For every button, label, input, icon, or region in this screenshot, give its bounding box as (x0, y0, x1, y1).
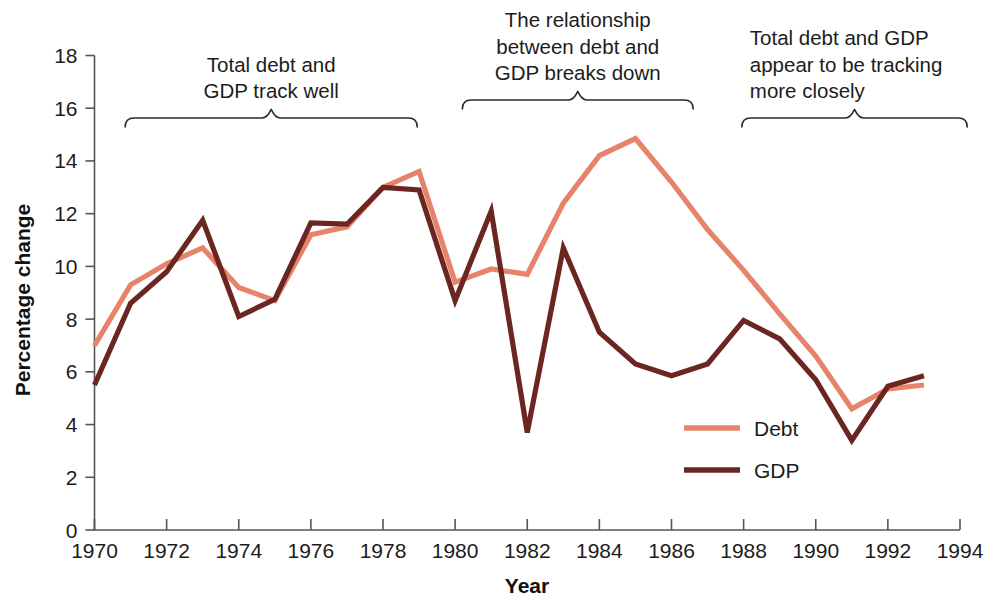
annotation-right-line: appear to be tracking (750, 53, 943, 76)
y-tick-label: 14 (54, 149, 78, 172)
annotation-middle-line: GDP breaks down (495, 61, 661, 84)
x-tick-label: 1988 (720, 539, 767, 562)
annotation-middle-line: The relationship (505, 8, 651, 31)
y-tick-label: 16 (54, 97, 77, 120)
y-tick-label: 6 (66, 360, 78, 383)
y-tick-label: 4 (66, 413, 78, 436)
y-tick-label: 12 (54, 202, 77, 225)
legend-label-gdp[interactable]: GDP (754, 459, 800, 482)
annotation-left-line: GDP track well (204, 79, 339, 102)
x-tick-label: 1982 (504, 539, 551, 562)
legend-label-debt[interactable]: Debt (754, 417, 799, 440)
chart-page: 024681012141618 197019721974197619781980… (0, 0, 990, 607)
x-tick-label: 1984 (576, 539, 623, 562)
x-tick-label: 1992 (865, 539, 912, 562)
x-tick-label: 1980 (432, 539, 479, 562)
line-chart: 024681012141618 197019721974197619781980… (0, 0, 990, 607)
y-tick-label: 2 (66, 466, 78, 489)
x-tick-label: 1976 (288, 539, 335, 562)
y-tick-label: 10 (54, 255, 77, 278)
x-tick-label: 1970 (71, 539, 118, 562)
x-tick-label: 1990 (792, 539, 839, 562)
x-tick-label: 1972 (143, 539, 190, 562)
x-tick-label: 1986 (648, 539, 695, 562)
x-tick-label: 1974 (215, 539, 262, 562)
annotation-left-line: Total debt and (207, 53, 336, 76)
x-tick-label: 1994 (937, 539, 984, 562)
x-axis-title: Year (505, 574, 549, 597)
annotation-right-line: more closely (750, 79, 866, 102)
y-axis-title: Percentage change (11, 204, 34, 397)
y-tick-label: 18 (54, 44, 77, 67)
annotation-middle-line: between debt and (496, 35, 659, 58)
x-tick-label: 1978 (360, 539, 407, 562)
y-tick-label: 8 (66, 308, 78, 331)
annotation-right-line: Total debt and GDP (750, 26, 929, 49)
